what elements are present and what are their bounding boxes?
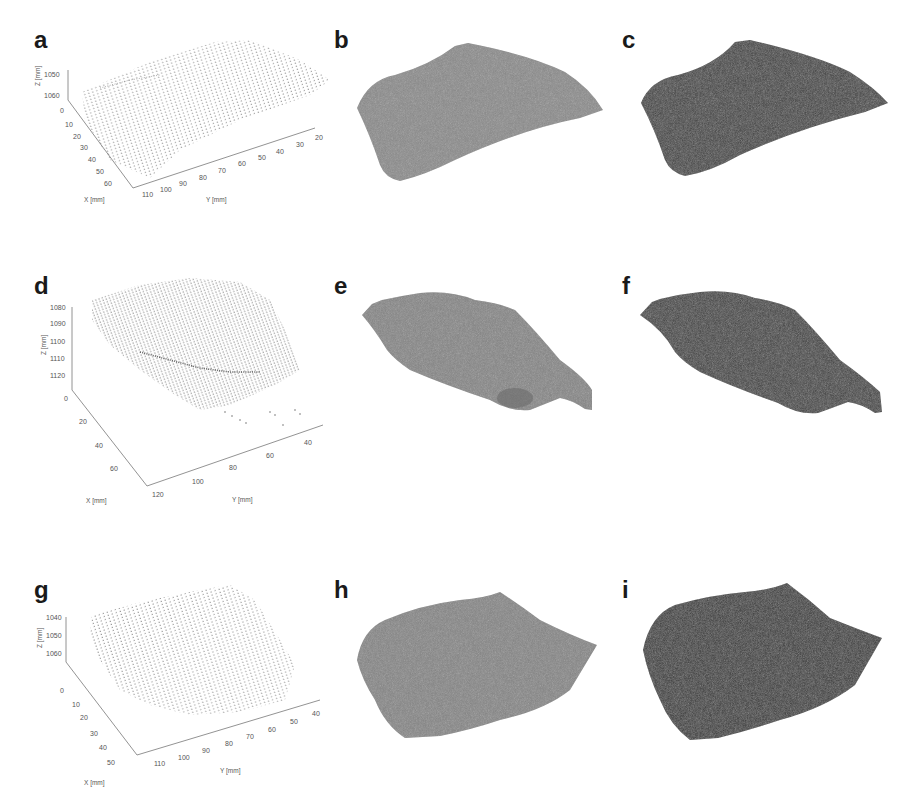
y-tick: 40 — [312, 710, 320, 717]
y-tick: 20 — [315, 134, 323, 141]
x-tick: 40 — [99, 744, 107, 751]
y-tick: 90 — [202, 747, 210, 754]
z-tick: 1050 — [46, 632, 62, 639]
x-tick: 30 — [90, 730, 98, 737]
y-tick: 40 — [276, 148, 284, 155]
z-tick: 1060 — [46, 650, 62, 657]
z-axis-label: Z [mm] — [36, 628, 44, 648]
x-tick: 20 — [80, 714, 88, 721]
x-tick: 50 — [107, 759, 115, 766]
y-tick: 60 — [268, 726, 276, 733]
y-tick: 70 — [218, 167, 226, 174]
panel-a-point-cloud: 1050 1060 Z [mm] 0 10 20 30 40 50 60 X [… — [34, 40, 330, 204]
x-tick: 10 — [72, 701, 80, 708]
y-tick: 100 — [192, 478, 204, 485]
x-axis-label: X [mm] — [84, 196, 105, 204]
y-axis-label: Y [mm] — [206, 196, 227, 204]
y-axis-label: Y [mm] — [220, 767, 241, 775]
x-tick: 30 — [80, 144, 88, 151]
x-tick: 20 — [73, 133, 81, 140]
x-tick: 40 — [88, 156, 96, 163]
x-tick: 60 — [110, 465, 118, 472]
y-tick: 110 — [142, 191, 153, 198]
z-tick: 1040 — [46, 614, 62, 621]
y-tick: 40 — [304, 439, 312, 446]
panel-g-point-cloud: 1040 1050 1060 Z [mm] 0 10 20 30 40 50 X… — [36, 585, 320, 787]
x-tick: 50 — [96, 168, 104, 175]
y-tick: 80 — [225, 740, 233, 747]
y-tick: 100 — [160, 186, 172, 193]
panel-c-shaded-surface — [641, 40, 888, 176]
x-tick: 10 — [65, 121, 73, 128]
x-tick: 60 — [104, 180, 112, 187]
panel-h-shaded-surface — [357, 592, 597, 738]
y-tick: 50 — [290, 718, 298, 725]
z-tick: 1060 — [44, 92, 60, 99]
figure-canvas: 1050 1060 Z [mm] 0 10 20 30 40 50 60 X [… — [0, 0, 923, 811]
y-tick: 70 — [246, 733, 254, 740]
z-tick: 1090 — [50, 320, 66, 327]
y-tick: 110 — [154, 760, 165, 767]
x-tick: 0 — [60, 107, 64, 114]
z-tick: 1050 — [44, 71, 60, 78]
x-axis-label: X [mm] — [84, 779, 105, 787]
panel-b-shaded-surface — [357, 43, 603, 181]
panel-i-shaded-surface — [643, 583, 882, 740]
y-tick: 80 — [229, 464, 237, 471]
z-tick: 1080 — [50, 304, 66, 311]
x-axis-label: X [mm] — [86, 497, 107, 505]
y-tick: 50 — [258, 154, 266, 161]
y-tick: 120 — [152, 491, 164, 498]
z-axis-label: Z [mm] — [34, 66, 42, 86]
y-tick: 60 — [266, 452, 274, 459]
panel-d-point-cloud: 1080 1090 1100 1110 1120 Z [mm] 0 20 40 … — [40, 278, 323, 505]
z-tick: 1100 — [50, 338, 65, 345]
z-tick: 1110 — [50, 355, 65, 362]
x-tick: 40 — [95, 442, 103, 449]
z-tick: 1120 — [50, 372, 65, 379]
y-tick: 60 — [238, 160, 246, 167]
y-axis-label: Y [mm] — [232, 496, 253, 504]
x-tick: 0 — [64, 395, 68, 402]
z-axis-label: Z [mm] — [40, 335, 48, 355]
y-tick: 100 — [178, 754, 190, 761]
y-tick: 90 — [179, 180, 187, 187]
x-tick: 20 — [79, 418, 87, 425]
y-tick: 80 — [199, 174, 207, 181]
panel-e-shaded-surface — [362, 292, 592, 410]
y-axis — [147, 425, 323, 486]
panel-f-shaded-surface — [640, 291, 882, 413]
y-tick: 30 — [296, 141, 304, 148]
x-tick: 0 — [60, 687, 64, 694]
